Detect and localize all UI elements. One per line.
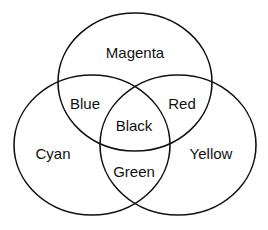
label-magenta: Magenta [106, 44, 165, 61]
label-green: Green [113, 163, 155, 180]
label-blue: Blue [70, 95, 100, 112]
label-black: Black [116, 117, 153, 134]
label-red: Red [168, 95, 196, 112]
venn-diagram: Magenta Blue Red Black Cyan Yellow Green [0, 0, 268, 230]
label-yellow: Yellow [190, 145, 233, 162]
label-cyan: Cyan [35, 145, 70, 162]
